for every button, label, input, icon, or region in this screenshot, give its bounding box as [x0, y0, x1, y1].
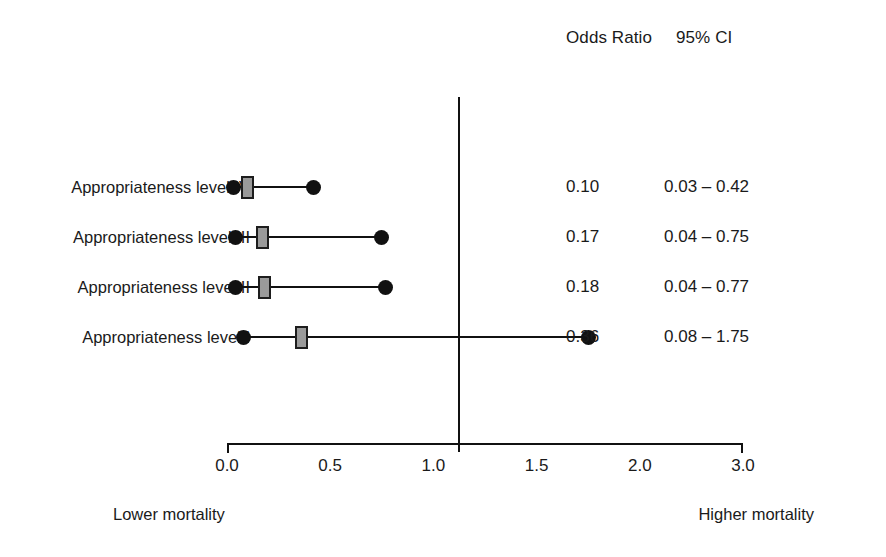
x-axis-right-cap: [741, 443, 743, 453]
forest-row-label: Appropriateness level I: [0, 328, 250, 347]
confidence-interval-value: 0.04 – 0.75: [664, 227, 749, 247]
plot-area: Appropriateness level IV0.100.03 – 0.42A…: [0, 0, 886, 557]
forest-row-label: Appropriateness level II: [0, 278, 250, 297]
ci-upper-endpoint: [306, 180, 321, 195]
lower-mortality-label: Lower mortality: [113, 505, 225, 524]
forest-row-label: Appropriateness level IV: [0, 178, 250, 197]
ci-lower-endpoint: [228, 280, 243, 295]
confidence-interval-value: 0.04 – 0.77: [664, 277, 749, 297]
x-axis-left-cap: [227, 443, 229, 453]
forest-plot: Odds Ratio 95% CI Appropriateness level …: [0, 0, 886, 557]
x-axis-line: [227, 443, 743, 445]
ci-lower-endpoint: [226, 180, 241, 195]
odds-ratio-value: 0.10: [566, 177, 599, 197]
ci-lower-endpoint: [228, 230, 243, 245]
odds-ratio-value: 0.17: [566, 227, 599, 247]
forest-row-label: Appropriateness level III: [0, 228, 250, 247]
higher-mortality-label: Higher mortality: [698, 505, 814, 524]
point-estimate-marker: [256, 226, 269, 249]
forest-row: Appropriateness level II0.180.04 – 0.77: [0, 267, 886, 307]
confidence-interval-value: 0.08 – 1.75: [664, 327, 749, 347]
x-axis-tick-label: 0.0: [215, 456, 239, 476]
odds-ratio-value: 0.36: [566, 327, 599, 347]
odds-ratio-value: 0.18: [566, 277, 599, 297]
x-axis-tick-label: 1.5: [525, 456, 549, 476]
x-axis-tick-label: 0.5: [318, 456, 342, 476]
ci-upper-endpoint: [378, 280, 393, 295]
x-axis-tick-label: 1.0: [422, 456, 446, 476]
ci-upper-endpoint: [374, 230, 389, 245]
point-estimate-marker: [241, 176, 254, 199]
forest-row: Appropriateness level I0.360.08 – 1.75: [0, 317, 886, 357]
x-axis-tick-label: 3.0: [731, 456, 755, 476]
x-axis-tick-null: [458, 443, 460, 452]
point-estimate-marker: [295, 326, 308, 349]
ci-lower-endpoint: [236, 330, 251, 345]
x-axis-tick-label: 2.0: [628, 456, 652, 476]
confidence-interval-value: 0.03 – 0.42: [664, 177, 749, 197]
point-estimate-marker: [258, 276, 271, 299]
forest-row: Appropriateness level III0.170.04 – 0.75: [0, 217, 886, 257]
forest-row: Appropriateness level IV0.100.03 – 0.42: [0, 167, 886, 207]
